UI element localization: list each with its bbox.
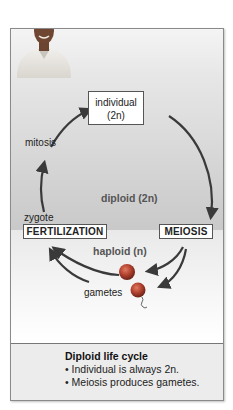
- arrow-meiosis-to-gamete-2: [161, 249, 186, 286]
- mitosis-label: mitosis: [25, 137, 56, 148]
- arrow-individual-to-meiosis: [169, 116, 212, 216]
- arrow-mitosis-to-individual: [51, 110, 89, 147]
- caption-box: Diploid life cycle • Individual is alway…: [11, 343, 223, 401]
- man-portrait-image: [15, 28, 73, 78]
- arrow-meiosis-to-gamete-1: [149, 247, 183, 271]
- arrow-zygote-to-mitosis: [41, 164, 44, 212]
- diploid-zone-label: diploid (2n): [101, 192, 158, 204]
- meiosis-node: MEIOSIS: [159, 224, 213, 239]
- caption-item-2: • Meiosis produces gametes.: [65, 376, 199, 388]
- gamete-sperm-icon: [131, 283, 146, 298]
- gamete-egg-icon: [119, 264, 135, 280]
- caption-item-1: • Individual is always 2n.: [65, 363, 179, 375]
- individual-node: individual (2n): [88, 91, 144, 125]
- caption-title: Diploid life cycle: [65, 350, 148, 362]
- haploid-zone-label: haploid (n): [93, 245, 147, 257]
- diagram-frame: individual (2n) mitosis diploid (2n) zyg…: [10, 28, 224, 401]
- fertilization-node: FERTILIZATION: [23, 224, 107, 239]
- sperm-tail-icon: [141, 297, 147, 308]
- individual-ploidy: (2n): [89, 109, 143, 122]
- gametes-label: gametes: [84, 287, 122, 298]
- zygote-label: zygote: [24, 212, 53, 223]
- individual-label: individual: [89, 96, 143, 109]
